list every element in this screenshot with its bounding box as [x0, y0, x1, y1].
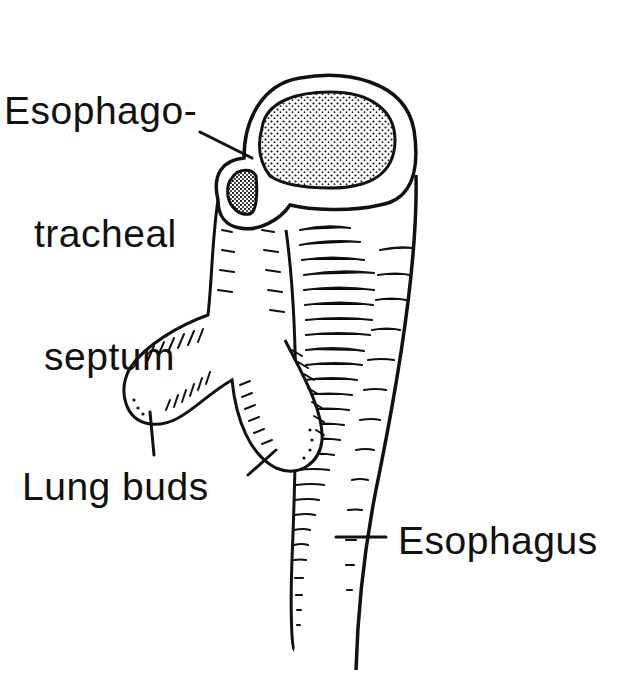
label-septum-line2: tracheal [4, 213, 197, 254]
trachea-lumen [228, 170, 257, 214]
esophagus-lumen [260, 92, 395, 188]
label-septum-line1: Esophago- [4, 90, 197, 131]
label-esophagotracheal-septum: Esophago- tracheal septum [4, 8, 197, 418]
label-esophagus: Esophagus [398, 520, 598, 561]
cut-surface [216, 76, 416, 229]
label-septum-line3: septum [4, 336, 197, 377]
label-lung-buds: Lung buds [22, 466, 209, 507]
